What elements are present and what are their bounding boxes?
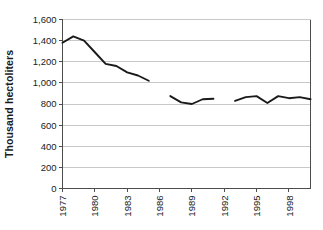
x-tick-label: 1986 xyxy=(154,196,165,217)
chart-canvas: 02004006008001,0001,2001,4001,600 197719… xyxy=(0,0,323,230)
y-tick-label: 0 xyxy=(51,183,56,194)
x-tick-label: 1992 xyxy=(219,196,230,217)
x-axis-tick-labels: 19771980198319861989199219951998 xyxy=(57,196,294,217)
y-tick-label: 1,400 xyxy=(33,35,57,46)
x-tick-label: 1977 xyxy=(57,196,68,217)
series-segment xyxy=(63,36,149,80)
x-tick-label: 1980 xyxy=(89,196,100,217)
y-axis-title-text: Thousand hectoliters xyxy=(3,50,15,158)
x-tick-label: 1983 xyxy=(122,196,133,217)
y-axis-tick-labels: 02004006008001,0001,2001,4001,600 xyxy=(33,14,57,194)
series-segment xyxy=(235,96,310,103)
x-tick-label: 1989 xyxy=(186,196,197,217)
gridlines xyxy=(63,20,311,168)
x-tick-label: 1998 xyxy=(284,196,295,217)
y-tick-label: 600 xyxy=(41,120,57,131)
x-tick-label: 1995 xyxy=(251,196,262,217)
y-tick-label: 200 xyxy=(41,162,57,173)
y-tick-label: 400 xyxy=(41,141,57,152)
data-series-line xyxy=(63,36,311,104)
y-tick-label: 1,600 xyxy=(33,14,57,25)
line-chart-figure: 02004006008001,0001,2001,4001,600 197719… xyxy=(0,0,323,230)
y-tick-label: 800 xyxy=(41,98,57,109)
y-tick-label: 1,000 xyxy=(33,77,57,88)
series-segment xyxy=(170,96,213,104)
y-axis-title: Thousand hectoliters xyxy=(3,50,15,158)
y-tick-label: 1,200 xyxy=(33,56,57,67)
